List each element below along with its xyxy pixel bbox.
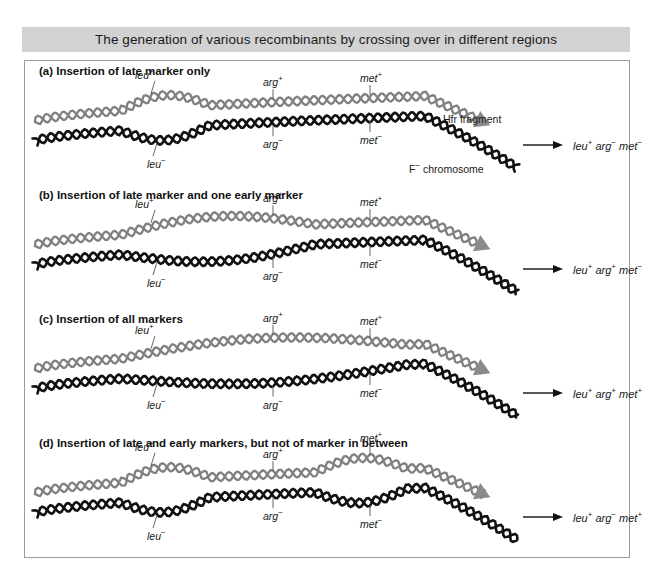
result-arrow: [523, 513, 563, 521]
hfr-marker-leu-a: leu+: [135, 67, 154, 81]
fminus-marker-met-a: met−: [360, 132, 382, 146]
fminus-chromosome-legend: F− chromosome: [409, 161, 484, 175]
fminus-marker-arg-b: arg−: [263, 268, 283, 282]
hfr-marker-leu-b: leu+: [135, 196, 154, 210]
result-arrow: [523, 389, 563, 397]
panel-dna-diagram: [25, 185, 631, 309]
label-leader-line: [153, 262, 157, 275]
label-leader-line: [153, 143, 157, 156]
hfr-marker-leu-c: leu+: [135, 322, 154, 336]
fminus-marker-leu-b: leu−: [147, 275, 166, 289]
hfr-marker-arg-c: arg+: [263, 310, 283, 324]
label-leader-line: [153, 515, 157, 528]
figure-root: The generation of various recombinants b…: [0, 0, 653, 583]
fminus-marker-met-b: met−: [360, 256, 382, 270]
panel-a: (a) Insertion of late marker onlyleu+arg…: [25, 61, 631, 185]
hfr-marker-arg-a: arg+: [263, 74, 283, 88]
fminus-marker-met-c: met−: [360, 385, 382, 399]
recombinant-result-b: leu+ arg+ met−: [573, 262, 642, 276]
panel-d: (d) Insertion of late and early markers,…: [25, 433, 631, 557]
panel-c: (c) Insertion of all markersleu+arg+met+…: [25, 309, 631, 433]
panel-dna-diagram: [25, 433, 631, 557]
fminus-marker-arg-d: arg−: [263, 508, 283, 522]
fminus-marker-met-d: met−: [360, 516, 382, 530]
hfr-marker-leu-d: leu+: [135, 439, 154, 453]
recombinant-result-c: leu+ arg+ met+: [573, 386, 642, 400]
hfr-fragment-legend: Hfr fragment: [443, 113, 501, 125]
figure-title: The generation of various recombinants b…: [95, 32, 557, 47]
hfr-marker-met-a: met+: [360, 70, 382, 84]
hfr-marker-met-d: met+: [360, 430, 382, 444]
panel-dna-diagram: [25, 309, 631, 433]
figure-panel-container: (a) Insertion of late marker onlyleu+arg…: [24, 60, 630, 558]
fminus-marker-leu-d: leu−: [147, 528, 166, 542]
hfr-marker-met-c: met+: [360, 313, 382, 327]
fminus-marker-leu-a: leu−: [147, 156, 166, 170]
panel-b: (b) Insertion of late marker and one ear…: [25, 185, 631, 309]
hfr-transfer-arrowhead: [473, 483, 490, 499]
hfr-marker-arg-b: arg+: [263, 190, 283, 204]
recombinant-result-a: leu+ arg− met−: [573, 138, 642, 152]
result-arrow: [523, 265, 563, 273]
fminus-marker-arg-a: arg−: [263, 136, 283, 150]
recombinant-result-d: leu+ arg− met+: [573, 510, 642, 524]
figure-title-bar: The generation of various recombinants b…: [22, 27, 630, 52]
result-arrow: [523, 141, 563, 149]
fminus-marker-arg-c: arg−: [263, 397, 283, 411]
hfr-marker-met-b: met+: [360, 194, 382, 208]
fminus-marker-leu-c: leu−: [147, 397, 166, 411]
panel-dna-diagram: [25, 61, 631, 185]
hfr-marker-arg-d: arg+: [263, 446, 283, 460]
